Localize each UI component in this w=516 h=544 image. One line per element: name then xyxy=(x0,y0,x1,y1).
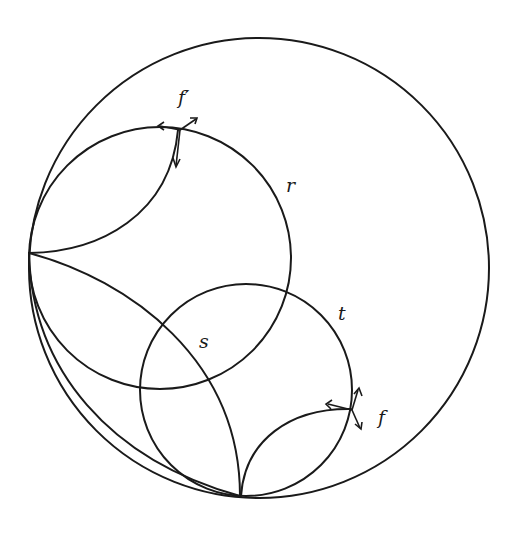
outer-disk-boundary xyxy=(29,38,489,498)
circle-t xyxy=(140,284,352,496)
geodesic-s xyxy=(29,253,240,496)
label-f-prime: f′ xyxy=(178,88,189,107)
label-t: t xyxy=(338,304,346,323)
frame-f-prime xyxy=(158,118,197,167)
frame-f xyxy=(326,388,362,429)
boundary-arc-left-bottom xyxy=(29,253,240,496)
diagram-canvas xyxy=(0,0,516,544)
label-s: s xyxy=(199,332,209,351)
geodesic-arc-to-f-prime xyxy=(29,130,178,253)
circle-r xyxy=(29,127,291,389)
label-f: f xyxy=(378,408,385,427)
label-r: r xyxy=(286,176,295,195)
